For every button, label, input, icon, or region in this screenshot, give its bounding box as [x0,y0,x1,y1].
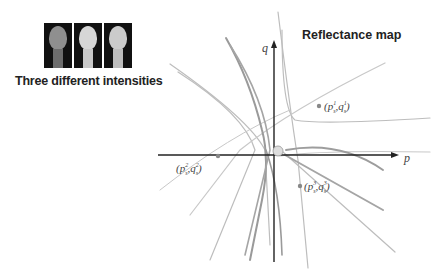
point-2-marker [216,154,220,158]
p-axis-arrow-icon [391,152,399,158]
svg-text:(p3s,q3s): (p3s,q3s) [304,180,330,194]
p-axis-label: p [403,151,410,165]
q-axis-arrow-icon [271,40,277,48]
reflectance-map-diagram: q p (p1s,q1s) (p2s,q2s) (p3s,q3s) [0,0,433,278]
origin-light-source [273,146,283,156]
q-axis-label: q [262,41,268,55]
point-3-marker [298,184,302,188]
point-1-label: (p1s,q1s) [324,100,350,114]
point-1-marker [317,104,321,108]
svg-text:(p2s,q2s): (p2s,q2s) [176,162,202,176]
svg-text:(p1s,q1s): (p1s,q1s) [324,100,350,114]
point-3-label: (p3s,q3s) [304,180,330,194]
point-2-label: (p2s,q2s) [176,162,202,176]
